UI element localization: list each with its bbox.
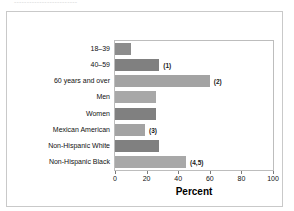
- x-tick-60: [210, 171, 211, 174]
- category-label-3: 60 years and over: [10, 77, 114, 84]
- bar-row: [115, 91, 273, 103]
- category-label-2: 40–59: [10, 61, 114, 68]
- bar-row: (3): [115, 124, 273, 136]
- bar-footnote-6: (3): [149, 126, 157, 133]
- bar-5: [115, 108, 156, 120]
- category-label-5: Women: [10, 109, 114, 116]
- cropped-header-label: -------------------------: [14, 0, 77, 5]
- x-tick-label-100: 100: [267, 175, 279, 182]
- x-tick-80: [241, 171, 242, 174]
- figure-frame: 18–3940–5960 years and overMenWomenMexic…: [6, 11, 283, 207]
- x-tick-label-60: 60: [206, 175, 214, 182]
- x-tick-label-80: 80: [237, 175, 245, 182]
- category-label-8: Non-Hispanic Black: [10, 157, 114, 164]
- x-tick-40: [178, 171, 179, 174]
- bar-row: (1): [115, 59, 273, 71]
- chart-container: 18–3940–5960 years and overMenWomenMexic…: [7, 12, 282, 206]
- bar-3: [115, 75, 210, 87]
- value-axis: 020406080100: [114, 171, 274, 172]
- bar-row: (4,5): [115, 156, 273, 168]
- bar-row: (2): [115, 75, 273, 87]
- bar-8: [115, 156, 186, 168]
- x-tick-label-20: 20: [143, 175, 151, 182]
- bar-footnote-2: (1): [163, 62, 171, 69]
- bar-footnote-3: (2): [214, 78, 222, 85]
- bar-2: [115, 59, 159, 71]
- x-tick-0: [115, 171, 116, 174]
- bar-row: [115, 140, 273, 152]
- plot-area: (1)(2)(3)(4,5): [114, 40, 274, 171]
- category-label-1: 18–39: [10, 45, 114, 52]
- category-label-7: Non-Hispanic White: [10, 141, 114, 148]
- bar-row: [115, 108, 273, 120]
- bar-footnote-8: (4,5): [190, 158, 203, 165]
- x-axis-title: Percent: [114, 186, 274, 197]
- bar-row: [115, 43, 273, 55]
- x-tick-label-0: 0: [113, 175, 117, 182]
- category-label-4: Men: [10, 93, 114, 100]
- category-axis-labels: 18–3940–5960 years and overMenWomenMexic…: [7, 40, 114, 171]
- cropped-header-text: -------------------------: [0, 0, 294, 9]
- bar-4: [115, 91, 156, 103]
- x-tick-label-40: 40: [174, 175, 182, 182]
- bar-7: [115, 140, 159, 152]
- bar-6: [115, 124, 145, 136]
- x-tick-20: [147, 171, 148, 174]
- x-tick-100: [273, 171, 274, 174]
- bar-1: [115, 43, 131, 55]
- category-label-6: Mexican American: [10, 125, 114, 132]
